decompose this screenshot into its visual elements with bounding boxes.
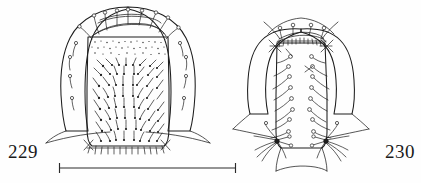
stipple-field	[91, 40, 165, 55]
figure-229-drawing	[46, 7, 210, 154]
neck-line-left	[46, 131, 66, 143]
figure-label-229: 229	[8, 142, 38, 161]
median-sclerite-outline	[87, 37, 169, 146]
anterior-alveolar-setae-230	[278, 23, 326, 39]
head-capsule-230-left-lobe	[248, 29, 301, 114]
figure-plate: 229 230	[0, 0, 421, 183]
neck-line-230-left	[233, 114, 250, 129]
posterior-margin-right	[146, 132, 210, 143]
median-sclerite-setae	[93, 58, 164, 141]
posterior-right-tuft	[310, 121, 349, 161]
posterior-margin-230-right	[326, 129, 369, 138]
plate-drawing	[0, 0, 421, 183]
head-capsule-right-lobe	[128, 7, 195, 131]
median-plate-230-outline	[276, 43, 327, 148]
anterior-ridge-2	[95, 23, 164, 34]
left-plate-curved-setae	[271, 55, 294, 138]
postgenal-line-left	[276, 148, 281, 171]
figure-230-drawing	[233, 18, 369, 171]
left-lobe-setae	[68, 41, 77, 110]
figure-label-230: 230	[385, 142, 415, 161]
scale-bar	[59, 163, 236, 173]
posterior-left-tuft	[254, 121, 293, 161]
postgenal-margin	[276, 166, 327, 171]
posterior-setal-fringe	[87, 146, 164, 154]
right-lobe-setae	[178, 41, 187, 110]
neck-line-230-right	[352, 114, 369, 129]
plate-crossbar-setae	[286, 49, 313, 72]
setal-tips	[98, 64, 159, 142]
postgenal-line-right	[322, 148, 327, 171]
neck-line-right	[190, 131, 210, 143]
head-capsule-230-right-lobe	[301, 29, 354, 114]
shoulder-cross-setae	[269, 40, 333, 52]
